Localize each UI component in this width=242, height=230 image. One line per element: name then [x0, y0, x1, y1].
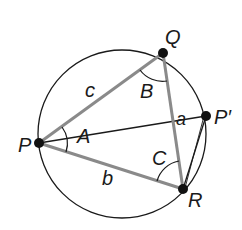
label-side-c: c: [85, 79, 95, 101]
label-p: P: [18, 134, 32, 156]
label-q: Q: [165, 26, 181, 48]
vertex-dot-q: [158, 48, 168, 58]
vertex-dot-pprime: [201, 111, 211, 121]
label-angle-c: C: [152, 147, 167, 169]
vertex-dot-r: [178, 184, 188, 194]
diagram-canvas: P Q R P′ c a b A B C: [0, 0, 242, 230]
vertex-dot-p: [34, 138, 44, 148]
label-r: R: [188, 189, 202, 211]
label-side-a: a: [176, 109, 186, 129]
label-side-b: b: [102, 167, 113, 189]
label-pprime: P′: [214, 106, 232, 128]
label-angle-b: B: [140, 80, 153, 102]
label-angle-a: A: [76, 125, 90, 147]
